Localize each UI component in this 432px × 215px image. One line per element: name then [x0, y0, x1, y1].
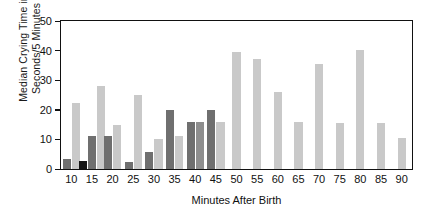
- bar: [134, 95, 142, 169]
- bar-chart: Median Crying Time in Seconds/5 Minutes …: [0, 0, 432, 215]
- bar: [274, 92, 282, 169]
- y-tick-label: 0: [24, 164, 52, 175]
- x-tick-label: 50: [230, 174, 242, 185]
- y-tick-label: 10: [24, 134, 52, 145]
- x-tick-label: 40: [189, 174, 201, 185]
- bar: [294, 122, 302, 169]
- x-axis-label: Minutes After Birth: [60, 194, 413, 206]
- bar: [88, 136, 96, 169]
- bar: [166, 110, 174, 169]
- x-tick-label: 25: [127, 174, 139, 185]
- bar: [216, 122, 224, 169]
- y-tick-mark: [55, 169, 60, 170]
- bar: [356, 50, 364, 169]
- bar: [72, 103, 80, 169]
- bar: [207, 110, 215, 169]
- x-tick-label: 75: [334, 174, 346, 185]
- x-tick-label: 45: [210, 174, 222, 185]
- y-tick-mark: [55, 21, 60, 22]
- x-tick-label: 85: [375, 174, 387, 185]
- x-tick-label: 60: [272, 174, 284, 185]
- bar: [377, 123, 385, 169]
- x-tick-label: 20: [106, 174, 118, 185]
- x-tick-label: 55: [251, 174, 263, 185]
- y-tick-mark: [55, 109, 60, 110]
- bars-container: [61, 21, 412, 169]
- bar: [63, 159, 71, 169]
- bar: [315, 64, 323, 169]
- y-tick-mark: [55, 139, 60, 140]
- bar: [145, 152, 153, 169]
- x-tick-label: 30: [148, 174, 160, 185]
- bar: [104, 136, 112, 169]
- bar: [113, 125, 121, 169]
- x-tick-label: 70: [313, 174, 325, 185]
- bar: [175, 136, 183, 169]
- x-tick-label: 90: [396, 174, 408, 185]
- x-tick-label: 15: [86, 174, 98, 185]
- bar: [336, 123, 344, 169]
- y-tick-mark: [55, 50, 60, 51]
- bar: [125, 162, 133, 169]
- x-tick-label: 65: [292, 174, 304, 185]
- bar: [79, 161, 87, 169]
- y-tick-label: 20: [24, 105, 52, 116]
- y-tick-label: 50: [24, 16, 52, 27]
- y-tick-label: 40: [24, 46, 52, 57]
- bar: [253, 59, 261, 169]
- x-tick-label: 80: [354, 174, 366, 185]
- x-tick-label: 10: [65, 174, 77, 185]
- bar: [232, 52, 240, 169]
- bar: [154, 139, 162, 169]
- x-tick-label: 35: [168, 174, 180, 185]
- bar: [398, 138, 406, 169]
- y-tick-label: 30: [24, 75, 52, 86]
- bar: [196, 122, 204, 169]
- bar: [187, 122, 195, 169]
- y-tick-mark: [55, 80, 60, 81]
